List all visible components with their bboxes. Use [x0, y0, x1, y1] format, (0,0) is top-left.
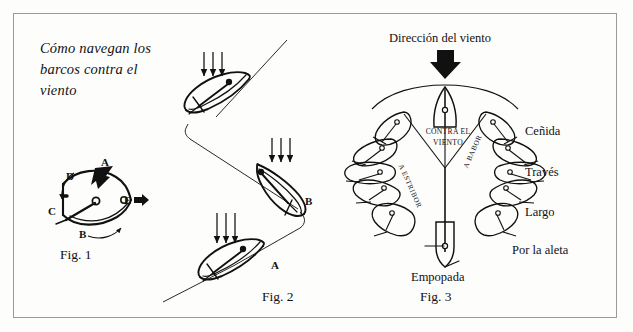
illustration-page: Cómo navegan los barcos contra el viento… [0, 0, 633, 332]
fig3-point-of-sail-largo: Largo [525, 205, 555, 221]
fig2-label-b: B [305, 195, 312, 209]
fig3-wind-direction-label: Dirección del viento [389, 31, 491, 47]
fig1-caption: Fig. 1 [60, 247, 92, 264]
fig1-label-d: D [66, 170, 74, 184]
page-title: Cómo navegan los barcos contra el viento [40, 38, 220, 101]
fig3-downwind-label: Empopada [411, 270, 464, 286]
fig1-label-e: E [124, 194, 131, 208]
fig1-label-c: C [48, 205, 56, 219]
fig3-caption: Fig. 3 [420, 289, 452, 306]
fig3-point-of-sail-traves: Través [525, 165, 559, 181]
fig1-label-b: B [79, 228, 86, 242]
fig2-caption: Fig. 2 [262, 289, 294, 306]
fig2-label-a: A [271, 259, 279, 273]
fig1-label-a: A [101, 156, 109, 170]
fig3-point-of-sail-por-la-aleta: Por la aleta [512, 243, 568, 259]
fig3-point-of-sail-cenida: Ceñida [525, 124, 560, 140]
